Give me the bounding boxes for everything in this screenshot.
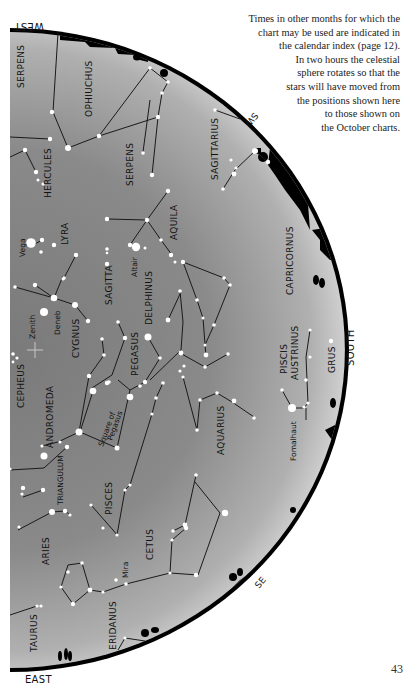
label-mira: Mira bbox=[121, 562, 130, 578]
label-piscis-austrinus-1: PISCIS bbox=[279, 344, 289, 374]
label-taurus: TAURUS bbox=[29, 614, 39, 653]
label-triangulum: TRIANGULUM bbox=[56, 455, 65, 506]
label-east: EAST bbox=[25, 674, 52, 683]
label-sagitta: SAGITTA bbox=[104, 265, 114, 305]
label-eridanus: ERIDANUS bbox=[108, 601, 118, 650]
label-se: SE bbox=[253, 575, 268, 591]
label-west: WEST bbox=[14, 21, 44, 32]
label-aquarius: AQUARIUS bbox=[216, 406, 226, 455]
label-serpens-caput: SERPENS bbox=[16, 45, 26, 88]
label-cepheus: CEPHEUS bbox=[16, 364, 26, 408]
label-south: SOUTH bbox=[345, 329, 356, 366]
label-zenith: Zenith bbox=[28, 314, 37, 339]
label-cetus: CETUS bbox=[145, 529, 155, 560]
label-vega: Vega bbox=[18, 238, 27, 257]
label-altair: Altair bbox=[130, 256, 139, 277]
label-lyra: LYRA bbox=[60, 222, 70, 245]
label-cygnus: CYGNUS bbox=[71, 319, 81, 358]
label-grus: GRUS bbox=[327, 346, 337, 373]
label-andromeda: ANDROMEDA bbox=[45, 385, 55, 448]
label-pisces: PISCES bbox=[104, 482, 114, 515]
label-fomalhaut: Fomalhaut bbox=[289, 421, 298, 461]
label-pegasus: PEGASUS bbox=[130, 332, 140, 376]
label-ophiuchus: OPHIUCHUS bbox=[84, 60, 94, 117]
label-deneb: Deneb bbox=[53, 310, 62, 335]
label-sagittarius: SAGITTARIUS bbox=[210, 118, 220, 180]
label-hercules: HERCULES bbox=[43, 148, 53, 198]
label-aries: ARIES bbox=[41, 537, 51, 565]
label-serpens-cauda: SERPENS bbox=[125, 143, 135, 186]
label-piscis-austrinus-2: AUSTRINUS bbox=[290, 325, 300, 380]
label-delphinus: DELPHINUS bbox=[144, 271, 154, 325]
page-number: 43 bbox=[391, 662, 403, 677]
label-capricornus: CAPRICORNUS bbox=[285, 226, 295, 295]
label-aquila: AQUILA bbox=[169, 204, 179, 240]
